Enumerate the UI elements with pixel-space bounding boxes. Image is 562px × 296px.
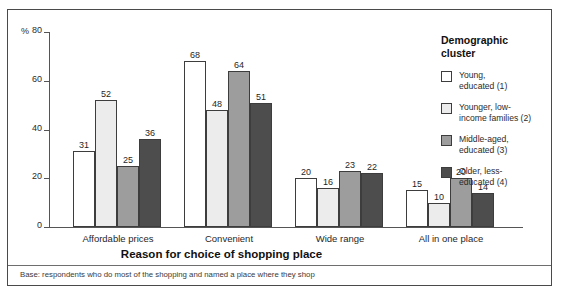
bar-series-1[interactable]: 31 (73, 151, 95, 227)
x-axis-line (49, 227, 523, 228)
y-tick-mark (44, 32, 49, 33)
bar-value-label: 52 (101, 89, 111, 99)
y-tick-label: 80 (32, 25, 42, 35)
bar-value-label: 16 (323, 177, 333, 187)
legend-title: Demographic cluster (441, 34, 546, 59)
y-axis-unit-label: % (21, 26, 29, 36)
legend-item-label: Young, educated (1) (459, 70, 507, 91)
bar-series-4[interactable]: 36 (139, 139, 161, 227)
bar-series-2[interactable]: 52 (95, 100, 117, 227)
legend-item-label: Older, less- educated (4) (459, 166, 507, 187)
bar-series-3[interactable]: 23 (339, 171, 361, 227)
legend-item-young-educated[interactable]: Young, educated (1) (441, 70, 546, 91)
x-category-label: Affordable prices (73, 233, 163, 244)
footnote-text: Base: respondents who do most of the sho… (20, 270, 315, 279)
bar-series-2[interactable]: 10 (428, 203, 450, 227)
bar-value-label: 22 (367, 162, 377, 172)
legend-swatch-icon (441, 135, 452, 146)
chart-figure-frame: % 80 60 40 20 0 31 (7, 9, 552, 286)
y-tick-label: 60 (32, 74, 42, 84)
y-tick-mark (44, 130, 49, 131)
legend-item-older-less-educated[interactable]: Older, less- educated (4) (441, 166, 546, 187)
bar-value-label: 51 (256, 92, 266, 102)
bar-series-3[interactable]: 25 (117, 166, 139, 227)
x-category-label: All in one place (406, 233, 496, 244)
y-tick-mark (44, 81, 49, 82)
bar-series-2[interactable]: 48 (206, 110, 228, 227)
legend-swatch-icon (441, 71, 452, 82)
plot-area: 80 60 40 20 0 31 52 25 (49, 32, 394, 227)
bar-value-label: 48 (212, 99, 222, 109)
bar-series-4[interactable]: 14 (472, 193, 494, 227)
y-tick-label: 0 (37, 220, 42, 230)
y-tick-mark (44, 227, 49, 228)
bar-series-4[interactable]: 51 (250, 103, 272, 227)
x-axis-title: Reason for choice of shopping place (49, 248, 394, 260)
legend-item-label: Middle-aged, educated (3) (459, 134, 509, 155)
legend-item-label: Younger, low- income families (2) (459, 102, 531, 123)
y-axis-line (49, 32, 50, 227)
bar-group-wide-range: 20 16 23 22 Wide range (295, 32, 385, 227)
bar-value-label: 31 (79, 140, 89, 150)
x-category-label: Wide range (295, 233, 385, 244)
bar-series-1[interactable]: 68 (184, 61, 206, 227)
bar-series-1[interactable]: 20 (295, 178, 317, 227)
y-tick-label: 40 (32, 123, 42, 133)
bar-value-label: 36 (145, 128, 155, 138)
y-tick-label: 20 (32, 171, 42, 181)
bar-series-3[interactable]: 64 (228, 71, 250, 227)
bar-series-2[interactable]: 16 (317, 188, 339, 227)
bar-group-affordable-prices: 31 52 25 36 Affordable prices (73, 32, 163, 227)
bar-series-4[interactable]: 22 (361, 173, 383, 227)
legend-item-middle-aged-educated[interactable]: Middle-aged, educated (3) (441, 134, 546, 155)
bar-value-label: 25 (123, 155, 133, 165)
bar-value-label: 15 (412, 179, 422, 189)
x-category-label: Convenient (184, 233, 274, 244)
legend-swatch-icon (441, 167, 452, 178)
bar-series-1[interactable]: 15 (406, 190, 428, 227)
legend-item-younger-low-income-families[interactable]: Younger, low- income families (2) (441, 102, 546, 123)
legend: Demographic cluster Young, educated (1) … (441, 34, 546, 198)
bar-value-label: 68 (190, 50, 200, 60)
bar-value-label: 23 (345, 160, 355, 170)
y-tick-mark (44, 178, 49, 179)
bar-value-label: 64 (234, 60, 244, 70)
legend-swatch-icon (441, 103, 452, 114)
footnote-divider (8, 265, 551, 266)
bar-value-label: 20 (301, 167, 311, 177)
bar-group-convenient: 68 48 64 51 Convenient (184, 32, 274, 227)
